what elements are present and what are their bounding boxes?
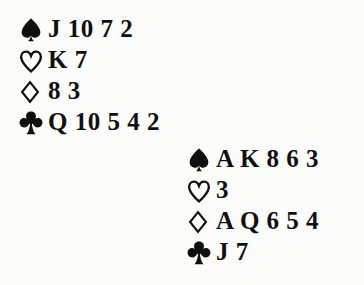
suit-row-diamonds: 8 3 [18, 76, 160, 107]
rank-sequence: A Q 6 5 4 [216, 208, 319, 235]
suit-row-spades: J 10 7 2 [18, 14, 160, 45]
club-icon [18, 110, 48, 136]
rank-sequence: J 10 7 2 [48, 16, 133, 43]
rank-sequence: A K 8 6 3 [216, 146, 319, 173]
heart-icon [186, 178, 216, 204]
rank-sequence: 3 [216, 177, 229, 204]
suit-row-clubs: J 7 [186, 237, 319, 268]
rank-sequence: 8 3 [48, 78, 81, 105]
suit-row-hearts: 3 [186, 175, 319, 206]
north-hand: J 10 7 2 K 7 8 3 Q 1 [18, 14, 160, 138]
rank-sequence: K 7 [48, 47, 88, 74]
diamond-icon [18, 79, 48, 105]
suit-row-diamonds: A Q 6 5 4 [186, 206, 319, 237]
club-icon [186, 240, 216, 266]
heart-icon [18, 48, 48, 74]
south-hand: A K 8 6 3 3 A Q 6 5 4 [186, 144, 319, 268]
diamond-icon [186, 209, 216, 235]
suit-row-hearts: K 7 [18, 45, 160, 76]
spade-icon [18, 17, 48, 43]
rank-sequence: Q 10 5 4 2 [48, 109, 160, 136]
rank-sequence: J 7 [216, 239, 249, 266]
spade-icon [186, 147, 216, 173]
bridge-hand-diagram: J 10 7 2 K 7 8 3 Q 1 [0, 0, 364, 285]
suit-row-spades: A K 8 6 3 [186, 144, 319, 175]
suit-row-clubs: Q 10 5 4 2 [18, 107, 160, 138]
